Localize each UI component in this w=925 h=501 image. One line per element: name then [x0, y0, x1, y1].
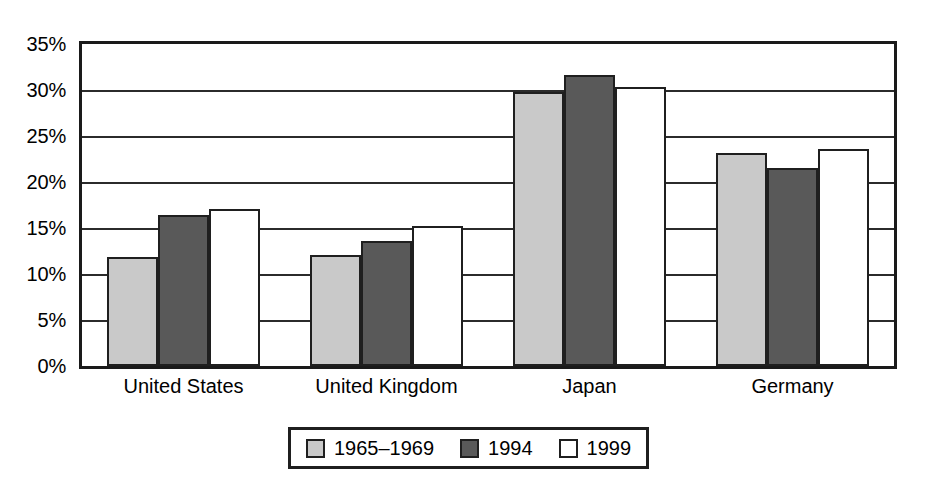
legend-swatch-icon [306, 439, 325, 458]
bar[interactable] [361, 241, 412, 366]
y-tick-label: 30% [27, 80, 66, 100]
bar-group [310, 44, 463, 366]
x-tick-label: Japan [562, 374, 617, 398]
bar[interactable] [412, 226, 463, 366]
plot-area [79, 41, 897, 369]
legend: 1965–196919941999 [288, 427, 649, 469]
y-tick-label: 25% [27, 126, 66, 146]
bar-group [513, 44, 666, 366]
bar[interactable] [158, 215, 209, 366]
legend-swatch-icon [559, 439, 578, 458]
legend-item[interactable]: 1965–1969 [306, 438, 434, 458]
bar[interactable] [513, 92, 564, 366]
bar[interactable] [615, 87, 666, 366]
legend-item[interactable]: 1994 [460, 438, 533, 458]
bar[interactable] [767, 168, 818, 366]
x-tick-label: Germany [751, 374, 833, 398]
x-tick-label: United States [123, 374, 243, 398]
legend-swatch-icon [460, 439, 479, 458]
y-tick-label: 5% [37, 310, 66, 330]
y-tick-label: 10% [27, 264, 66, 284]
bar-chart: 0%5%10%15%20%25%30%35% United StatesUnit… [0, 0, 925, 501]
x-axis-category-labels: United StatesUnited KingdomJapanGermany [79, 374, 897, 404]
y-tick-label: 20% [27, 172, 66, 192]
x-tick-label: United Kingdom [315, 374, 457, 398]
y-tick-label: 35% [27, 34, 66, 54]
legend-item[interactable]: 1999 [559, 438, 632, 458]
y-tick-label: 0% [37, 356, 66, 376]
bar-group [716, 44, 869, 366]
bar[interactable] [818, 149, 869, 366]
bar[interactable] [716, 153, 767, 366]
legend-label: 1999 [587, 438, 632, 458]
y-axis: 0%5%10%15%20%25%30%35% [0, 0, 72, 501]
legend-label: 1965–1969 [334, 438, 434, 458]
legend-label: 1994 [488, 438, 533, 458]
bar[interactable] [107, 257, 158, 366]
bar[interactable] [310, 255, 361, 366]
bar[interactable] [209, 209, 260, 366]
bar[interactable] [564, 75, 615, 366]
y-tick-label: 15% [27, 218, 66, 238]
bar-group [107, 44, 260, 366]
bar-groups [82, 44, 894, 366]
